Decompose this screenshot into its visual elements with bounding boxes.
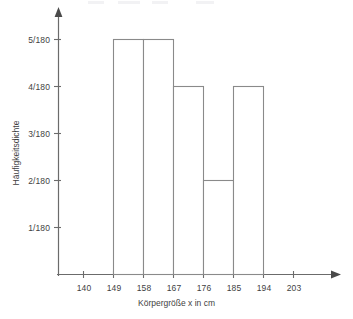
bar-149-158[interactable]: [114, 40, 144, 275]
x-tick-label-176: 176: [197, 283, 211, 293]
y-axis: [55, 7, 63, 276]
x-tick-label-158: 158: [137, 283, 151, 293]
x-tick-label-167: 167: [167, 283, 181, 293]
bar-176-185[interactable]: [204, 181, 234, 275]
bar-158-167[interactable]: [144, 40, 174, 275]
y-tick-label-5: 5/180: [0, 35, 50, 45]
y-axis-title: Häufigkeitsdichte: [11, 103, 21, 203]
x-axis-title: Körpergröße x in cm: [0, 298, 353, 308]
plot-area: [0, 0, 353, 319]
x-tick-label-140: 140: [77, 283, 91, 293]
y-tick-label-2: 2/180: [0, 176, 50, 186]
histogram-chart: 5/180 4/180 3/180 2/180 1/180 140 149 15…: [0, 0, 353, 319]
y-tick-label-1: 1/180: [0, 223, 50, 233]
x-tick-label-149: 149: [107, 283, 121, 293]
bar-185-194[interactable]: [234, 87, 264, 275]
x-tick-label-203: 203: [287, 283, 301, 293]
histogram-bars: [114, 40, 264, 275]
y-tick-label-4: 4/180: [0, 82, 50, 92]
x-tick-label-185: 185: [227, 283, 241, 293]
y-tick-label-3: 3/180: [0, 129, 50, 139]
y-axis-ticks: [54, 40, 61, 228]
bar-167-176[interactable]: [174, 87, 204, 275]
x-tick-label-194: 194: [257, 283, 271, 293]
